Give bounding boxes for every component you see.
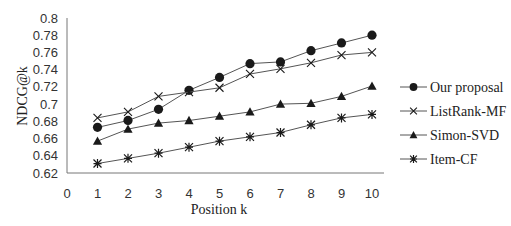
circle-marker-icon: [410, 83, 418, 91]
circle-marker-icon: [93, 123, 102, 132]
x-tick-label: 5: [216, 186, 223, 201]
x-axis-title: Position k: [191, 202, 247, 217]
series-line: [98, 114, 373, 163]
circle-marker-icon: [123, 116, 132, 125]
series-line: [98, 52, 373, 118]
x-tick-label: 0: [63, 186, 70, 201]
x-tick-label: 9: [338, 186, 345, 201]
plot-area: [93, 31, 377, 168]
asterisk-marker-icon: [307, 120, 315, 129]
legend-label: Simon-SVD: [430, 128, 499, 143]
x-marker-icon: [94, 114, 102, 122]
y-tick-label: 0.8: [40, 11, 58, 26]
x-marker-icon: [307, 59, 315, 67]
y-tick-label: 0.68: [33, 114, 58, 129]
asterisk-marker-icon: [124, 154, 132, 163]
asterisk-marker-icon: [410, 155, 417, 163]
y-tick-label: 0.66: [33, 131, 58, 146]
ndcg-line-chart: 0.620.640.660.680.70.720.740.760.780.8 0…: [0, 0, 511, 226]
y-tick-label: 0.7: [40, 97, 58, 112]
x-tick-label: 10: [365, 186, 379, 201]
circle-marker-icon: [184, 86, 193, 95]
series-listrank-mf: [94, 48, 377, 121]
asterisk-marker-icon: [216, 137, 224, 146]
y-tick-label: 0.72: [33, 79, 58, 94]
circle-marker-icon: [337, 38, 346, 47]
legend-label: ListRank-MF: [430, 104, 506, 119]
legend-item: Simon-SVD: [400, 128, 499, 143]
y-tick-label: 0.74: [33, 62, 58, 77]
asterisk-marker-icon: [338, 113, 346, 122]
asterisk-marker-icon: [277, 128, 285, 137]
circle-marker-icon: [245, 59, 254, 68]
asterisk-marker-icon: [185, 143, 193, 152]
x-marker-icon: [124, 108, 132, 116]
triangle-marker-icon: [367, 81, 376, 89]
legend-item: ListRank-MF: [400, 104, 506, 119]
y-axis: 0.620.640.660.680.70.720.740.760.780.8: [33, 11, 67, 181]
y-tick-label: 0.64: [33, 148, 58, 163]
triangle-marker-icon: [93, 137, 102, 145]
asterisk-marker-icon: [246, 132, 254, 141]
circle-marker-icon: [306, 46, 315, 55]
x-tick-label: 6: [246, 186, 253, 201]
legend-label: Item-CF: [430, 152, 478, 167]
y-tick-label: 0.62: [33, 166, 58, 181]
x-axis: 012345678910: [63, 173, 384, 201]
x-tick-label: 7: [277, 186, 284, 201]
y-tick-label: 0.76: [33, 45, 58, 60]
circle-marker-icon: [154, 105, 163, 114]
circle-marker-icon: [367, 31, 376, 40]
legend-label: Our proposal: [430, 80, 504, 95]
circle-marker-icon: [215, 73, 224, 82]
asterisk-marker-icon: [155, 149, 163, 158]
series-simon-svd: [93, 81, 377, 144]
asterisk-marker-icon: [94, 159, 102, 168]
triangle-marker-icon: [337, 92, 346, 100]
legend-item: Our proposal: [400, 80, 504, 95]
legend-item: Item-CF: [400, 152, 478, 167]
x-tick-label: 1: [94, 186, 101, 201]
x-tick-label: 4: [185, 186, 192, 201]
x-tick-label: 2: [124, 186, 131, 201]
y-axis-title: NDCG@k: [15, 66, 30, 126]
y-tick-label: 0.78: [33, 28, 58, 43]
legend: Our proposalListRank-MFSimon-SVDItem-CF: [400, 80, 506, 167]
series-item-cf: [94, 110, 377, 168]
series-line: [98, 86, 373, 141]
x-tick-label: 3: [155, 186, 162, 201]
asterisk-marker-icon: [368, 110, 376, 119]
x-tick-label: 8: [307, 186, 314, 201]
